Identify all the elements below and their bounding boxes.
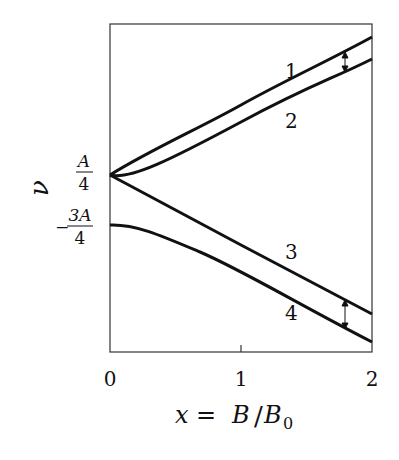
curve-3 xyxy=(110,175,372,314)
x-tick-label-1: 1 xyxy=(235,367,248,391)
curve-label-2: 2 xyxy=(285,109,298,133)
svg-text:4: 4 xyxy=(75,228,86,248)
curve-label-3: 3 xyxy=(285,240,298,264)
svg-text:=: = xyxy=(196,401,216,429)
curve-1 xyxy=(110,37,372,175)
plot-frame xyxy=(110,24,372,352)
x-tick-label-0: 0 xyxy=(104,367,117,391)
x-axis-label: x = B / B 0 xyxy=(175,401,293,433)
svg-text:4: 4 xyxy=(79,174,90,194)
svg-text:/: / xyxy=(254,401,263,431)
y-tick-neg-3a-over-4: − 3A 4 xyxy=(55,205,93,248)
curve-label-4: 4 xyxy=(285,301,298,325)
svg-text:B: B xyxy=(263,401,282,429)
gap-arrow-1-2 xyxy=(342,52,348,72)
svg-text:A: A xyxy=(76,151,90,171)
gap-arrow-3-4 xyxy=(342,300,348,329)
energy-level-chart: 1 2 3 4 A 4 − 3A 4 ν 0 1 2 x = B / B 0 xyxy=(0,0,399,460)
curve-4 xyxy=(110,225,372,342)
y-axis-label: ν xyxy=(24,180,54,196)
svg-text:B: B xyxy=(231,401,250,429)
svg-text:x: x xyxy=(175,401,189,429)
svg-text:3A: 3A xyxy=(68,205,91,225)
curve-2 xyxy=(110,59,372,176)
svg-text:−: − xyxy=(55,217,69,237)
svg-text:0: 0 xyxy=(283,414,293,433)
x-tick-label-2: 2 xyxy=(366,367,379,391)
curve-label-1: 1 xyxy=(285,59,298,83)
y-tick-a-over-4: A 4 xyxy=(76,151,93,194)
